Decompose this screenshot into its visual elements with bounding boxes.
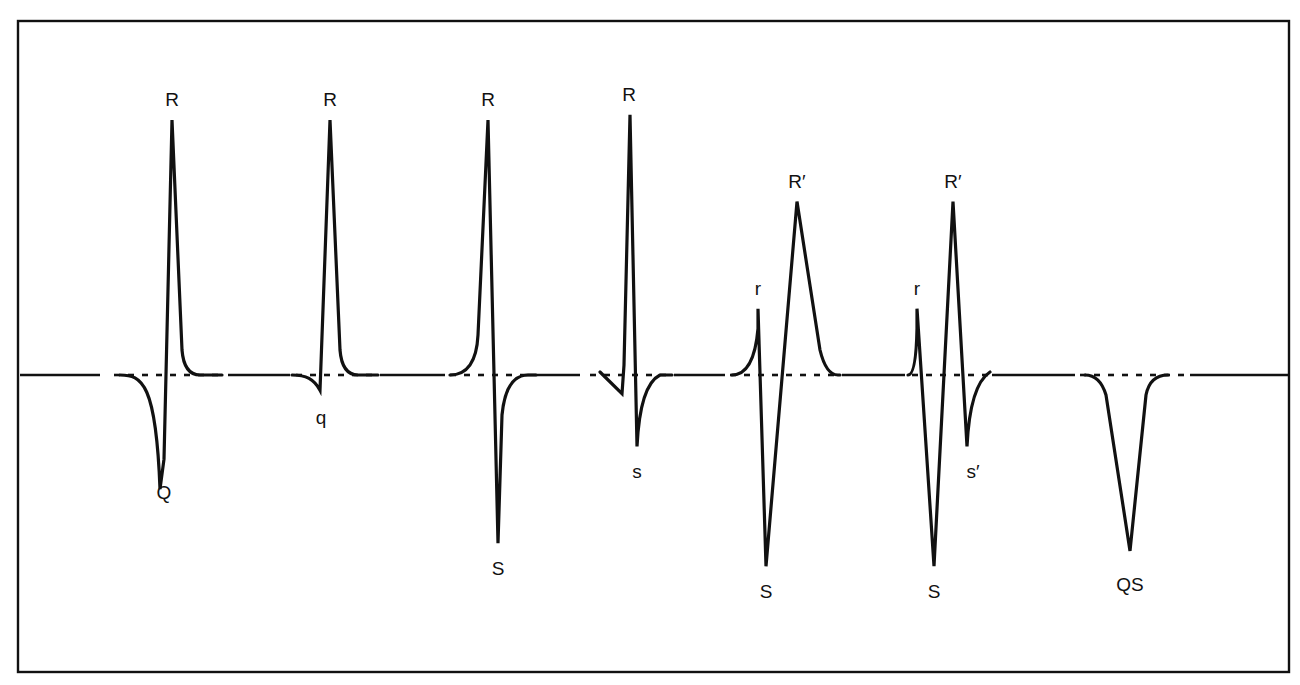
wave-label: R′ bbox=[944, 171, 962, 192]
wave-label: R bbox=[165, 89, 179, 110]
wave-label: r bbox=[914, 278, 921, 299]
qrs-complex-qRs: Rs bbox=[600, 84, 672, 483]
qrs-complex-QS: QS bbox=[1085, 375, 1168, 595]
wave-label: Q bbox=[157, 482, 172, 503]
wave-label: q bbox=[316, 407, 327, 428]
wave-label: R bbox=[323, 89, 337, 110]
qrs-complexes: RQRqRSRsrSR′rSR′s′QS bbox=[120, 84, 1168, 602]
qrs-waveform bbox=[908, 202, 990, 567]
wave-label: s′ bbox=[966, 461, 980, 482]
wave-label: S bbox=[760, 581, 773, 602]
wave-label: R bbox=[481, 89, 495, 110]
qrs-waveform bbox=[1085, 375, 1168, 551]
diagram-canvas: RQRqRSRsrSR′rSR′s′QS bbox=[0, 0, 1300, 685]
qrs-waveform bbox=[600, 115, 672, 447]
qrs-waveform bbox=[120, 120, 222, 489]
wave-label: S bbox=[928, 581, 941, 602]
qrs-complex-qR: Rq bbox=[292, 89, 378, 428]
qrs-waveform bbox=[292, 120, 378, 390]
wave-label: QS bbox=[1116, 574, 1143, 595]
figure-frame bbox=[18, 21, 1289, 672]
wave-label: r bbox=[755, 278, 762, 299]
wave-label: R bbox=[622, 84, 636, 105]
wave-label: R′ bbox=[788, 171, 806, 192]
wave-label: s bbox=[632, 461, 642, 482]
qrs-waveform bbox=[732, 202, 840, 567]
qrs-complex-rSR-prime: rSR′ bbox=[732, 171, 840, 603]
qrs-morphology-diagram: RQRqRSRsrSR′rSR′s′QS bbox=[0, 0, 1300, 685]
qrs-complex-rSR-prime-s-prime: rSR′s′ bbox=[908, 171, 990, 603]
qrs-waveform bbox=[450, 120, 536, 543]
wave-label: S bbox=[492, 558, 505, 579]
qrs-complex-qR-large-Q: RQ bbox=[120, 89, 222, 503]
qrs-complex-RS: RS bbox=[450, 89, 536, 579]
